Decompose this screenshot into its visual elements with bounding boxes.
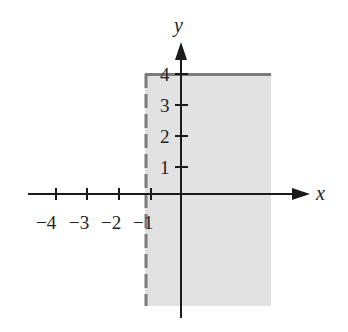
- x-axis-label: x: [315, 182, 325, 204]
- y-tick-label: 4: [160, 64, 170, 85]
- x-tick-label: −4: [36, 212, 57, 233]
- y-tick-label: 1: [160, 157, 170, 178]
- x-tick-label: −3: [69, 212, 89, 233]
- x-tick-label: −1: [133, 212, 153, 233]
- y-tick-label: 2: [160, 126, 170, 147]
- x-tick-label: −2: [101, 212, 121, 233]
- y-axis-arrow-icon: [175, 42, 187, 60]
- coordinate-plane: −4 −3 −2 −1 1 2 3 4 x y: [0, 0, 348, 332]
- y-tick-label: 3: [160, 95, 170, 116]
- y-axis-label: y: [172, 14, 183, 37]
- x-axis-arrow-icon: [292, 188, 310, 200]
